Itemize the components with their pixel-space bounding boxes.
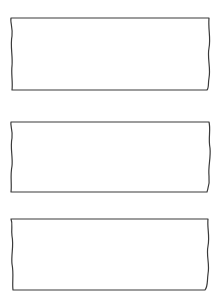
panel-3-outline (0, 217, 221, 294)
panel-1-outline (0, 16, 221, 94)
panel-3 (0, 217, 221, 294)
panel-2 (0, 120, 221, 196)
panel-2-outline (0, 120, 221, 196)
drawing-figure (0, 0, 221, 300)
panel-1 (0, 16, 221, 94)
